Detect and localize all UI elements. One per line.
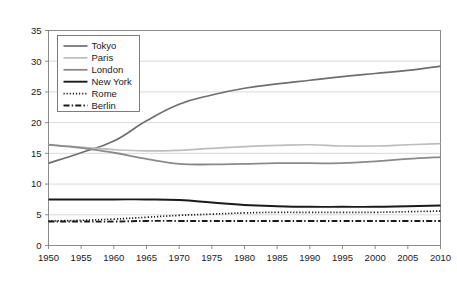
legend-label-london: London bbox=[92, 64, 124, 75]
x-tick-label: 1970 bbox=[169, 252, 190, 263]
x-tick-label: 1990 bbox=[299, 252, 320, 263]
series-line-new-york bbox=[49, 199, 441, 206]
chart-canvas: 05101520253035 1950195519601965197019751… bbox=[0, 0, 457, 282]
y-tick-label: 30 bbox=[31, 56, 42, 67]
legend-label-tokyo: Tokyo bbox=[92, 40, 117, 51]
x-tick-label: 2000 bbox=[365, 252, 386, 263]
series-line-rome bbox=[49, 211, 441, 221]
x-tick-label: 1950 bbox=[38, 252, 59, 263]
x-tick-label: 1980 bbox=[234, 252, 255, 263]
y-tick-label: 25 bbox=[31, 86, 42, 97]
line-chart: 05101520253035 1950195519601965197019751… bbox=[0, 0, 457, 282]
y-tick-label: 35 bbox=[31, 25, 42, 36]
x-tick-label: 2010 bbox=[430, 252, 451, 263]
series-line-london bbox=[49, 145, 441, 165]
x-tick-label: 1955 bbox=[71, 252, 92, 263]
y-tick-label: 0 bbox=[36, 240, 41, 251]
legend-label-berlin: Berlin bbox=[92, 100, 116, 111]
x-tick-label: 1965 bbox=[136, 252, 157, 263]
legend-label-new-york: New York bbox=[92, 76, 132, 87]
legend-label-paris: Paris bbox=[92, 52, 114, 63]
legend-label-rome: Rome bbox=[92, 88, 117, 99]
y-axis-ticks bbox=[45, 31, 49, 246]
y-tick-label: 5 bbox=[36, 209, 41, 220]
y-tick-label: 10 bbox=[31, 178, 42, 189]
x-tick-label: 1985 bbox=[267, 252, 288, 263]
y-tick-label: 20 bbox=[31, 117, 42, 128]
series-line-berlin bbox=[49, 221, 441, 222]
x-tick-label: 2005 bbox=[397, 252, 418, 263]
x-tick-label: 1960 bbox=[103, 252, 124, 263]
y-tick-label: 15 bbox=[31, 148, 42, 159]
x-axis-labels: 1950195519601965197019751980198519901995… bbox=[38, 252, 451, 263]
chart-legend: TokyoParisLondonNew YorkRomeBerlin bbox=[58, 36, 140, 112]
x-tick-label: 1995 bbox=[332, 252, 353, 263]
y-axis-labels: 05101520253035 bbox=[31, 25, 42, 251]
x-tick-label: 1975 bbox=[201, 252, 222, 263]
x-axis-ticks bbox=[49, 246, 441, 250]
